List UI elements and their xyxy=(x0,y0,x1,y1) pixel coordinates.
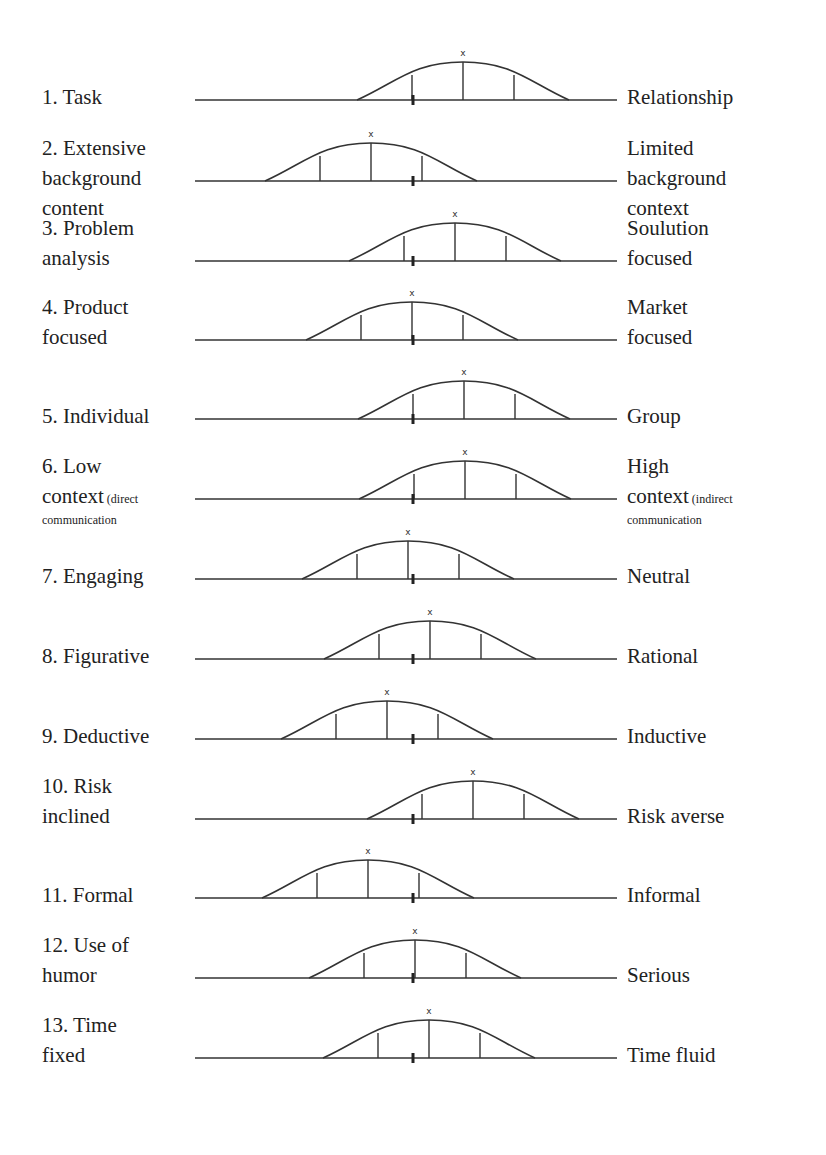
peak-marker: x xyxy=(460,48,466,58)
continuum-row-5: x xyxy=(195,367,617,424)
continuum-row-13: x xyxy=(195,1006,617,1063)
continuum-row-1: x xyxy=(195,48,617,105)
left-label: 12. Use ofhumor xyxy=(42,930,129,990)
left-label: 5. Individual xyxy=(42,401,149,431)
peak-marker: x xyxy=(461,367,467,377)
right-label: Time fluid xyxy=(627,1040,716,1070)
left-label: 7. Engaging xyxy=(42,561,143,591)
continuum-row-3: x xyxy=(195,209,617,266)
peak-marker: x xyxy=(470,767,476,777)
left-label: 1. Task xyxy=(42,82,102,112)
continuum-row-6: x xyxy=(195,447,617,504)
right-label: Highcontext (indirectcommunication xyxy=(627,451,732,526)
peak-marker: x xyxy=(426,1006,432,1016)
continuum-row-2: x xyxy=(195,129,617,186)
peak-marker: x xyxy=(427,607,433,617)
continuum-row-4: x xyxy=(195,288,617,345)
right-label: Marketfocused xyxy=(627,292,692,352)
peak-marker: x xyxy=(409,288,415,298)
continuum-row-9: x xyxy=(195,687,617,744)
continuum-row-11: x xyxy=(195,846,617,903)
continuum-row-7: x xyxy=(195,527,617,584)
continuum-row-12: x xyxy=(195,926,617,983)
left-label: 8. Figurative xyxy=(42,641,149,671)
peak-marker: x xyxy=(462,447,468,457)
left-label: 9. Deductive xyxy=(42,721,149,751)
right-label: Informal xyxy=(627,880,700,910)
left-label: 3. Problemanalysis xyxy=(42,213,134,273)
left-label: 10. Riskinclined xyxy=(42,771,112,831)
peak-marker: x xyxy=(368,129,374,139)
peak-marker: x xyxy=(412,926,418,936)
right-label: Limitedbackgroundcontext xyxy=(627,133,726,223)
peak-marker: x xyxy=(365,846,371,856)
right-label: Relationship xyxy=(627,82,733,112)
right-label: Rational xyxy=(627,641,698,671)
peak-marker: x xyxy=(452,209,458,219)
left-label: 6. Lowcontext (directcommunication xyxy=(42,451,138,526)
left-label: 4. Productfocused xyxy=(42,292,128,352)
peak-marker: x xyxy=(384,687,390,697)
right-label: Inductive xyxy=(627,721,706,751)
left-label: 2. Extensivebackgroundcontent xyxy=(42,133,146,223)
right-label: Group xyxy=(627,401,681,431)
left-label: 13. Timefixed xyxy=(42,1010,117,1070)
left-label: 11. Formal xyxy=(42,880,133,910)
peak-marker: x xyxy=(405,527,411,537)
right-label: Serious xyxy=(627,960,690,990)
right-label: Soulutionfocused xyxy=(627,213,709,273)
right-label: Risk averse xyxy=(627,801,724,831)
continuum-row-8: x xyxy=(195,607,617,664)
right-label: Neutral xyxy=(627,561,690,591)
continuum-row-10: x xyxy=(195,767,617,824)
